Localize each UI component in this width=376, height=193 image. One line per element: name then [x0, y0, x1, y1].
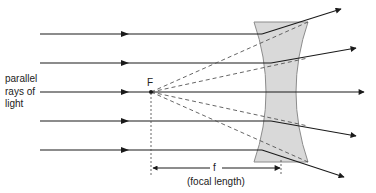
parallel-rays-caption-line3: light — [5, 98, 24, 109]
incoming-rays — [40, 34, 364, 150]
parallel-rays-caption-line2: rays of — [5, 86, 35, 97]
focal-length-caption: (focal length) — [187, 176, 245, 187]
diverging-lens-diagram: F f (focal length) parallel rays of ligh… — [0, 0, 376, 193]
focal-length-symbol: f — [213, 162, 216, 173]
direction-arrowheads — [121, 31, 129, 153]
focal-point-label: F — [147, 77, 153, 88]
parallel-rays-caption-line1: parallel — [5, 73, 37, 84]
